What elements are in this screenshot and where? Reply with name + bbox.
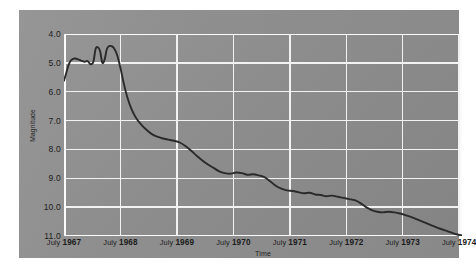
y-tick-label: 10.0 (33, 203, 61, 212)
x-tick-label: July 1974 (442, 238, 476, 247)
plot-area (64, 34, 462, 236)
y-tick-label: 4.0 (33, 30, 61, 39)
y-tick-label: 8.0 (33, 145, 61, 154)
y-tick-label: 9.0 (33, 174, 61, 183)
y-axis-title: Magnitude (29, 96, 36, 156)
y-tick-label: 7.0 (33, 117, 61, 126)
x-tick-label: July 1972 (329, 238, 363, 247)
axis-lines (65, 34, 461, 236)
x-axis-title: Time (64, 250, 462, 257)
x-tick-label: July 1973 (386, 238, 420, 247)
x-tick-label: July 1971 (273, 238, 307, 247)
y-tick-label: 6.0 (33, 88, 61, 97)
x-tick-label: July 1969 (160, 238, 194, 247)
y-tick-label: 5.0 (33, 59, 61, 68)
gridlines (64, 34, 462, 236)
x-tick-label: July 1967 (47, 238, 81, 247)
x-tick-label: July 1968 (103, 238, 137, 247)
chart-panel: 4.0 5.0 6.0 7.0 8.0 9.0 10.0 11.0 Magnit… (19, 10, 459, 258)
x-tick-label: July 1970 (216, 238, 250, 247)
